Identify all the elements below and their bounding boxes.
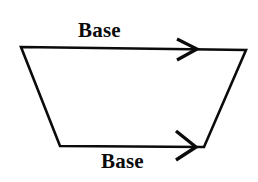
top-base-label: Base [78,20,121,41]
trapezoid-outline [21,47,246,147]
bottom-base-label: Base [101,151,144,172]
figure-canvas: Base Base [0,0,258,182]
